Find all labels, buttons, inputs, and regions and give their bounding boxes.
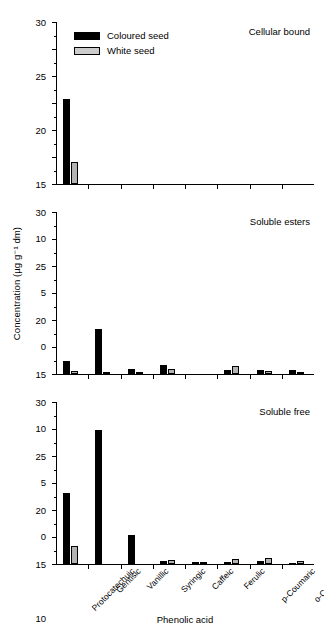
- x-axis-category-label: Vanillic: [145, 566, 171, 592]
- bar: [136, 372, 143, 374]
- y-axis-tick: 10: [52, 130, 56, 131]
- bar: [168, 369, 175, 374]
- bar: [63, 493, 70, 564]
- y-axis-tick: 20: [52, 76, 56, 77]
- y-axis-minor-tick: [54, 36, 57, 37]
- y-axis-minor-tick: [54, 144, 57, 145]
- x-axis-category-label: Ferulic: [241, 566, 266, 591]
- bar: [232, 559, 239, 564]
- bar: [160, 561, 167, 564]
- y-axis-tick-label: 10: [35, 233, 46, 244]
- y-axis-tick-label: 10: [35, 613, 46, 624]
- bar: [128, 535, 135, 564]
- x-axis-category-label: p-Coumaric: [279, 566, 317, 604]
- bar: [168, 560, 175, 564]
- y-axis-tick-label: 20: [35, 125, 46, 136]
- y-axis-minor-tick: [54, 497, 57, 498]
- y-axis-line: [56, 22, 57, 185]
- x-axis-tick: [185, 185, 186, 189]
- bar: [289, 370, 296, 374]
- y-axis-minor-tick: [54, 253, 57, 254]
- y-axis-minor-tick: [54, 63, 57, 64]
- x-axis-tick: [250, 375, 251, 379]
- y-axis-minor-tick: [54, 443, 57, 444]
- x-axis-tick: [185, 375, 186, 379]
- y-axis-tick: 0: [52, 564, 56, 565]
- y-axis-tick-label: 30: [35, 397, 46, 408]
- y-axis-tick: 30: [52, 212, 56, 213]
- panel-caption: Soluble free: [259, 406, 310, 417]
- bar: [257, 561, 264, 564]
- legend-swatch-white-seed: [74, 47, 100, 55]
- y-axis-line: [56, 212, 57, 375]
- bar: [224, 370, 231, 374]
- y-axis-minor-tick: [54, 551, 57, 552]
- bar: [63, 361, 70, 374]
- y-axis-tick: 0: [52, 184, 56, 185]
- figure: Concentration (µg g⁻¹ dm) Cellular bound…: [0, 0, 324, 632]
- x-axis-tick: [153, 185, 154, 189]
- x-axis-tick: [88, 375, 89, 379]
- x-axis-category-label: Syringic: [178, 566, 206, 594]
- x-axis-tick: [121, 185, 122, 189]
- x-axis-tick: [217, 375, 218, 379]
- y-axis-tick: 25: [52, 429, 56, 430]
- y-axis-tick: 15: [52, 483, 56, 484]
- y-axis-tick-label: 25: [35, 71, 46, 82]
- legend-item-coloured-seed: Coloured seed: [74, 28, 169, 43]
- panel-soluble-esters: Soluble esters 051015202530: [56, 212, 314, 375]
- y-axis-minor-tick: [54, 524, 57, 525]
- bar: [224, 562, 231, 564]
- bar: [103, 372, 110, 374]
- legend-swatch-coloured-seed: [74, 32, 100, 40]
- y-axis-minor-tick: [54, 307, 57, 308]
- y-axis-tick-label: 25: [35, 451, 46, 462]
- y-axis-tick-label: 20: [35, 315, 46, 326]
- y-axis-minor-tick: [54, 90, 57, 91]
- x-axis-tick: [88, 185, 89, 189]
- y-axis-tick: 30: [52, 402, 56, 403]
- bar: [95, 329, 102, 374]
- y-axis-tick-label: 5: [41, 287, 46, 298]
- panel-cellular-bound: Cellular bound Coloured seed White seed …: [56, 22, 314, 185]
- legend-item-white-seed: White seed: [74, 43, 169, 58]
- bar: [71, 546, 78, 564]
- bar: [71, 162, 78, 184]
- bar: [297, 372, 304, 374]
- legend-label-coloured-seed: Coloured seed: [107, 30, 169, 41]
- y-axis-tick: 15: [52, 103, 56, 104]
- x-axis-category-label: Caffeic: [209, 566, 235, 592]
- y-axis-tick-label: 15: [35, 369, 46, 380]
- bar: [232, 366, 239, 374]
- x-axis-tick: [217, 185, 218, 189]
- y-axis-tick-label: 5: [41, 477, 46, 488]
- panel-caption: Soluble esters: [250, 216, 310, 227]
- bar: [160, 365, 167, 374]
- y-axis-tick: 25: [52, 239, 56, 240]
- panel-soluble-free: Soluble free 051015202530: [56, 402, 314, 565]
- y-axis-minor-tick: [54, 334, 57, 335]
- y-axis-tick-label: 30: [35, 17, 46, 28]
- plot-area: Cellular bound Coloured seed White seed …: [56, 22, 314, 185]
- y-axis-tick: 5: [52, 157, 56, 158]
- y-axis-tick: 10: [52, 320, 56, 321]
- y-axis-tick-label: 15: [35, 559, 46, 570]
- y-axis-minor-tick: [54, 117, 57, 118]
- bar: [95, 430, 102, 564]
- bar: [265, 371, 272, 374]
- y-axis-minor-tick: [54, 171, 57, 172]
- x-axis-tick: [250, 185, 251, 189]
- bar: [265, 558, 272, 564]
- y-axis-minor-tick: [54, 226, 57, 227]
- y-axis-line: [56, 402, 57, 565]
- x-axis-title: Phenolic acid: [56, 614, 314, 625]
- y-axis-tick-label: 30: [35, 207, 46, 218]
- plot-area: Soluble esters 051015202530: [56, 212, 314, 375]
- x-axis-category-labels: ProtocatechuicGentisicVanillicSyringicCa…: [56, 566, 314, 618]
- y-axis-tick: 20: [52, 456, 56, 457]
- x-axis-tick: [153, 375, 154, 379]
- y-axis-tick: 15: [52, 293, 56, 294]
- y-axis-minor-tick: [54, 280, 57, 281]
- y-axis-tick: 5: [52, 347, 56, 348]
- bar: [200, 562, 207, 564]
